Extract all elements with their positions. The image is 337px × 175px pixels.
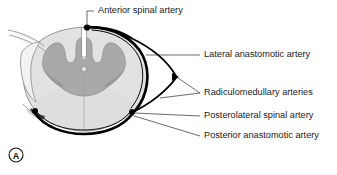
leader-posterolateral-spinal-artery xyxy=(134,113,200,116)
panel-label-letter: A xyxy=(13,151,20,161)
panel-label: A xyxy=(9,148,23,162)
label-lateral-anastomotic-artery: Lateral anastomotic artery xyxy=(204,49,311,59)
leader-radiculomedullary-lower xyxy=(160,93,200,98)
label-posterior-anastomotic-artery: Posterior anastomotic artery xyxy=(204,130,319,140)
cord-anatomy-group xyxy=(8,27,147,131)
label-anterior-spinal-artery: Anterior spinal artery xyxy=(98,5,183,15)
posterolateral-spinal-artery-dot-right xyxy=(129,109,135,115)
label-posterolateral-spinal-artery: Posterolateral spinal artery xyxy=(204,110,314,120)
figure-root: Anterior spinal artery Lateral anastomot… xyxy=(0,0,337,175)
leader-anterior-spinal-artery xyxy=(87,11,94,26)
leader-posterior-anastomotic-artery xyxy=(131,115,200,136)
spinal-cord-diagram: Anterior spinal artery Lateral anastomot… xyxy=(0,0,337,175)
posterolateral-spinal-artery-dot-left xyxy=(32,108,38,114)
leader-radiculomedullary-upper xyxy=(178,78,200,93)
label-radiculomedullary-arteries: Radiculomedullary arteries xyxy=(204,87,313,97)
anterior-median-fissure xyxy=(82,28,87,57)
central-canal-lumen xyxy=(83,68,85,70)
